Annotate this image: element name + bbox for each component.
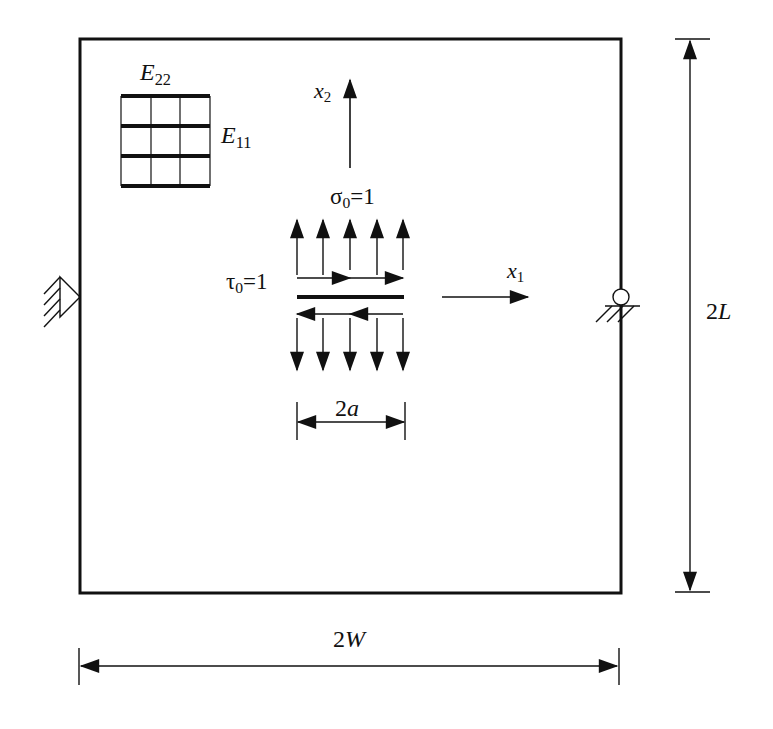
- normal-stress-arrows-lower: [297, 318, 403, 370]
- sigma-rest: =1: [350, 184, 374, 209]
- width-var: W: [345, 626, 365, 652]
- e22-sub: 22: [155, 70, 171, 89]
- x1-main: x: [507, 258, 517, 283]
- normal-stress-arrows-upper: [297, 220, 403, 275]
- height-main: 2: [706, 298, 718, 324]
- crack-length-main: 2: [335, 395, 347, 421]
- tau-sub: 0: [235, 279, 243, 296]
- crack-length-var: a: [347, 395, 359, 421]
- x1-label: x1: [507, 260, 524, 285]
- sigma-label: σ0=1: [330, 185, 375, 211]
- plate-diagram: [0, 0, 773, 729]
- crack-length-label: 2a: [335, 396, 359, 420]
- width-label: 2W: [333, 627, 365, 651]
- x2-main: x: [314, 78, 324, 103]
- x2-sub: 2: [324, 89, 331, 105]
- x2-label: x2: [314, 80, 331, 105]
- tau-main: τ: [226, 269, 235, 294]
- sigma-main: σ: [330, 184, 342, 209]
- material-grid-icon: [121, 96, 210, 186]
- pinned-support-icon: [44, 277, 80, 327]
- e22-label: E22: [140, 60, 171, 88]
- tau-rest: =1: [243, 269, 267, 294]
- roller-support-icon: [596, 289, 640, 322]
- e22-main: E: [140, 59, 155, 85]
- width-main: 2: [333, 626, 345, 652]
- e11-sub: 11: [236, 133, 252, 152]
- width-dimension: [79, 648, 619, 685]
- e11-main: E: [221, 122, 236, 148]
- tau-label: τ0=1: [226, 270, 268, 296]
- height-var: L: [718, 298, 731, 324]
- height-label: 2L: [706, 299, 731, 323]
- x1-sub: 1: [517, 269, 524, 285]
- height-dimension: [675, 39, 710, 592]
- e11-label: E11: [221, 123, 251, 151]
